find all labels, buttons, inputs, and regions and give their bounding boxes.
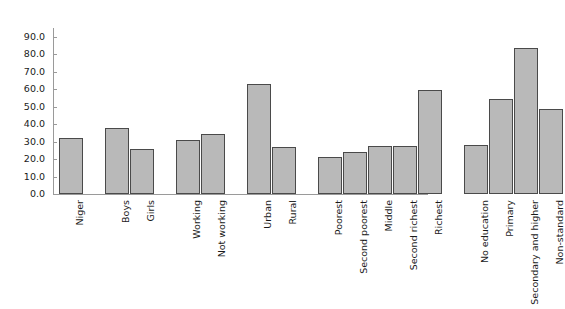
x-axis-tick-label: Not working bbox=[217, 200, 227, 257]
bar bbox=[393, 146, 417, 194]
y-axis-tick-label: 60.0 bbox=[1, 84, 45, 94]
y-axis-tick-label: 90.0 bbox=[1, 32, 45, 42]
x-axis-tick-label: Non-standard bbox=[555, 200, 565, 265]
bar bbox=[368, 146, 392, 194]
x-axis-tick-label: Richest bbox=[434, 200, 444, 235]
x-axis-tick-label: Girls bbox=[146, 200, 156, 222]
y-axis-tick-label: 80.0 bbox=[1, 49, 45, 59]
bar bbox=[247, 84, 271, 194]
x-axis-tick-label: Urban bbox=[263, 200, 273, 229]
bar bbox=[464, 145, 488, 194]
y-axis-tick-label: 40.0 bbox=[1, 119, 45, 129]
x-axis-tick-label: Rural bbox=[288, 200, 298, 225]
bar bbox=[176, 140, 200, 194]
x-axis-tick-label: Poorest bbox=[334, 200, 344, 235]
bar bbox=[343, 152, 367, 194]
bar bbox=[105, 128, 129, 194]
bar bbox=[418, 90, 442, 194]
x-axis-tick-label: Secondary and higher bbox=[530, 200, 540, 305]
x-axis-tick-label: Second poorest bbox=[359, 200, 369, 274]
bar bbox=[59, 138, 83, 194]
bar bbox=[272, 147, 296, 194]
x-axis-tick-label: Niger bbox=[75, 200, 85, 226]
y-axis-tick-label: 10.0 bbox=[1, 172, 45, 182]
bar bbox=[514, 48, 538, 194]
y-axis-tick-label: 70.0 bbox=[1, 67, 45, 77]
plot-area bbox=[53, 28, 428, 194]
bar bbox=[130, 149, 154, 194]
y-axis-tick-label: 50.0 bbox=[1, 102, 45, 112]
y-axis-tick-label: 20.0 bbox=[1, 154, 45, 164]
bar bbox=[318, 157, 342, 194]
bar bbox=[539, 109, 563, 194]
y-axis-tick-label: 30.0 bbox=[1, 137, 45, 147]
bar bbox=[201, 134, 225, 194]
x-axis-tick-label: No education bbox=[480, 200, 490, 263]
y-axis-tick-label: 0.0 bbox=[1, 189, 45, 199]
x-axis-tick-label: Boys bbox=[121, 200, 131, 223]
x-axis-tick-label: Middle bbox=[384, 200, 394, 231]
x-axis-tick-label: Primary bbox=[505, 200, 515, 237]
x-axis-tick-label: Working bbox=[192, 200, 202, 239]
x-axis-tick-label: Second richest bbox=[409, 200, 419, 270]
bar bbox=[489, 99, 513, 194]
x-axis-line bbox=[53, 194, 428, 195]
y-axis-tick bbox=[53, 194, 57, 195]
